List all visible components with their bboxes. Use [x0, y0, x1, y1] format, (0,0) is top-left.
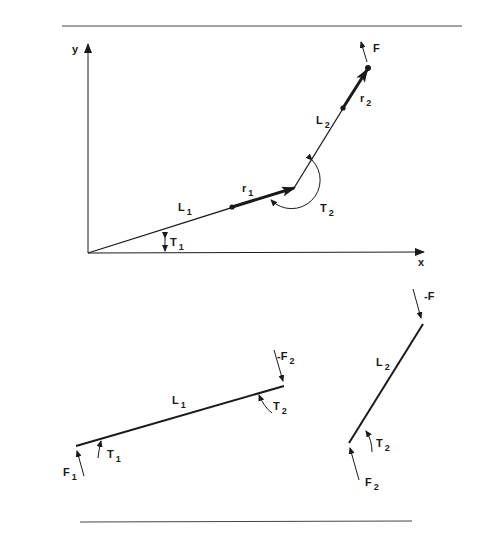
end-effector-dot: [365, 65, 371, 71]
link-1-bar-label: L1: [172, 394, 186, 410]
t2-torque-arrow: [259, 395, 272, 413]
link-1-bar: [76, 386, 284, 446]
t2-label: T2: [320, 202, 334, 218]
x-axis: [88, 252, 424, 253]
free-body-link-1: L1 F1 T1 -F2 T2: [63, 350, 294, 482]
r2-label: r2: [360, 92, 371, 108]
x-axis-label: x: [418, 256, 425, 268]
minus-f-label: -F: [424, 290, 435, 302]
t1-torque-arrow: [98, 441, 101, 458]
t2-torque-label: T2: [273, 400, 287, 416]
f1-arrow: [77, 451, 84, 476]
r1-label: r1: [242, 182, 253, 198]
top-diagram: y x F L1 L2 r1 r2 T1 T2: [72, 42, 425, 268]
link-1-label: L1: [178, 201, 192, 217]
force-f-arrow: [361, 42, 367, 62]
arm-diagram: y x F L1 L2 r1 r2 T1 T2 L1 F1: [0, 0, 486, 535]
bottom-rule: [80, 521, 412, 522]
r2-joint-dot: [340, 105, 345, 110]
link-2-label: L2: [316, 114, 330, 130]
minus-f2-label: -F2: [277, 350, 294, 366]
link-2-bar-label: L2: [376, 356, 390, 372]
free-body-link-2: L2 -F T2 F2: [349, 289, 435, 492]
f1-label: F1: [63, 466, 77, 482]
t2-torque-arrow-link2: [366, 431, 372, 452]
y-axis-label: y: [72, 43, 79, 55]
t1-label: T1: [170, 236, 184, 252]
r1-joint-dot: [229, 204, 234, 209]
f2-arrow: [350, 448, 359, 480]
t2-torque-label-link2: T2: [376, 437, 390, 453]
link-2-bar: [349, 324, 423, 443]
force-f-label: F: [373, 42, 380, 54]
minus-f-arrow: [413, 289, 421, 318]
t1-torque-label: T1: [107, 448, 121, 464]
f2-label: F2: [365, 476, 379, 492]
